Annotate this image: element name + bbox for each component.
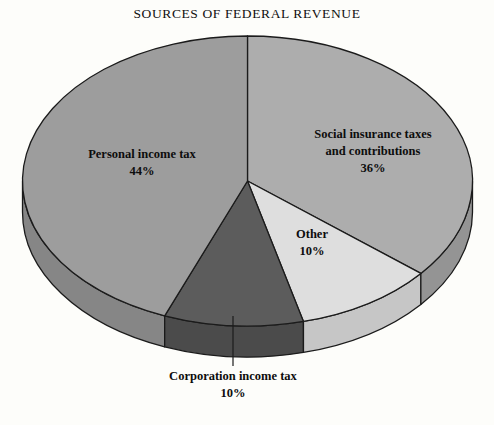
pie-label-other-percent: 10% (276, 243, 348, 260)
pie-label-other-text: Other (276, 226, 348, 243)
pie-label-personal-percent: 44% (52, 163, 232, 180)
pie-top-face (22, 36, 472, 326)
pie-chart-graphic (0, 0, 494, 425)
pie-label-corporation-percent: 10% (118, 385, 348, 402)
pie-label-personal-text: Personal income tax (52, 146, 232, 163)
pie-chart-figure: SOURCES OF FEDERAL REVENUE (0, 0, 494, 425)
pie-label-other: Other 10% (276, 226, 348, 260)
pie-label-social-insurance: Social insurance taxes and contributions… (283, 126, 463, 177)
pie-label-corporation-text: Corporation income tax (118, 368, 348, 385)
pie-label-social-text-line2: and contributions (283, 143, 463, 160)
pie-label-corporation-income: Corporation income tax 10% (118, 368, 348, 402)
pie-label-social-percent: 36% (283, 160, 463, 177)
pie-label-personal-income: Personal income tax 44% (52, 146, 232, 180)
pie-label-social-text-line1: Social insurance taxes (283, 126, 463, 143)
